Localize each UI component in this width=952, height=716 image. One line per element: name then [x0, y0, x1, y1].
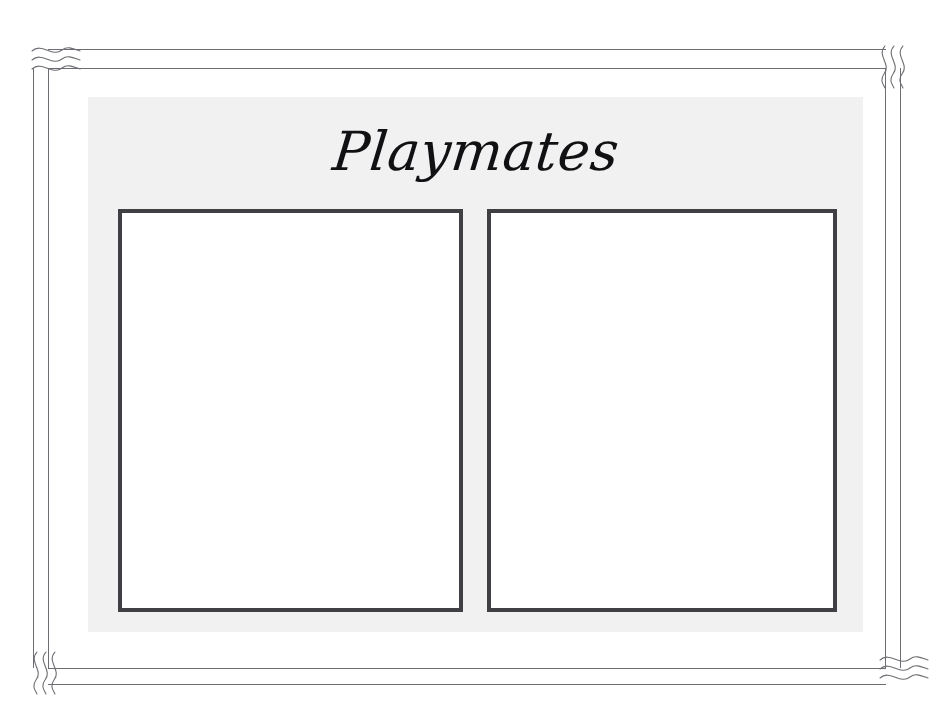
border-rule-bottom-outer [48, 668, 886, 669]
corner-ornament-top-left-icon [24, 38, 88, 86]
border-rule-top-outer [48, 49, 886, 50]
page-title: Playmates [0, 125, 952, 179]
border-rule-top-inner [48, 68, 886, 69]
corner-ornament-bottom-right-icon [872, 646, 936, 694]
scrapbook-page: Playmates [0, 0, 952, 716]
border-rule-bottom-inner [48, 684, 886, 685]
corner-ornament-top-right-icon [872, 38, 920, 94]
corner-ornament-bottom-left-icon [24, 646, 72, 702]
photo-frame-right[interactable] [487, 209, 837, 612]
photo-frame-left[interactable] [118, 209, 463, 612]
